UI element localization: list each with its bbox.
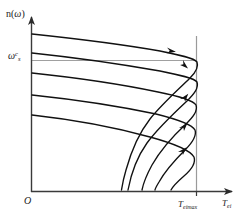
guide-lines [32, 36, 198, 192]
plot-svg [0, 0, 247, 222]
axes [31, 17, 232, 196]
teimax-subscript: eimax [183, 204, 197, 210]
omega-symbol: ω [8, 50, 15, 61]
figure-container: n(ω) ωcs O Teimax Tei [0, 0, 247, 222]
y-axis-label: n(ω) [6, 9, 25, 19]
curve-2-arrow [179, 60, 190, 71]
y-axis-label-paren: ) [21, 8, 24, 19]
curve-3 [32, 73, 196, 190]
curve-2 [32, 53, 197, 190]
x-axis-label: Tei [222, 199, 231, 210]
x-axis-subscript: ei [227, 203, 231, 209]
omega-subscript: s [18, 55, 21, 62]
curve-1 [32, 34, 198, 190]
teimax-tick-label: Teimax [178, 200, 197, 211]
curve-5 [32, 115, 194, 190]
curve-4 [32, 95, 195, 190]
origin-label: O [24, 196, 31, 206]
curve-group [32, 34, 198, 190]
omega-level-label: ωcs [8, 51, 21, 62]
